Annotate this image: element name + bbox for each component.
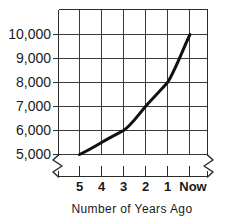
x-axis-title: Number of Years Ago — [71, 202, 192, 216]
y-axis-label-6000: 6,000 — [16, 122, 51, 138]
x-axis-label-1: 1 — [164, 179, 171, 194]
axis-break-left — [53, 155, 62, 177]
y-axis-label-5000: 5,000 — [16, 146, 51, 162]
x-axis-label-5: 5 — [76, 179, 83, 194]
chart-figure: 10,000 9,000 8,000 7,000 6,000 5,000 — [0, 0, 230, 224]
y-axis-label-7000: 7,000 — [16, 98, 51, 114]
horizontal-gridlines — [58, 35, 207, 155]
y-axis-tickmarks — [53, 35, 58, 155]
x-axis-labels: 5 4 3 2 1 Now — [76, 179, 208, 194]
y-axis-label-10000: 10,000 — [8, 26, 51, 42]
data-line-series — [80, 35, 191, 155]
y-axis-label-8000: 8,000 — [16, 74, 51, 90]
x-axis-tickmarks — [80, 166, 190, 177]
line-chart-svg: 10,000 9,000 8,000 7,000 6,000 5,000 — [0, 0, 230, 224]
x-axis-label-4: 4 — [98, 179, 106, 194]
axis-break-right — [204, 155, 213, 177]
y-axis-labels: 10,000 9,000 8,000 7,000 6,000 5,000 — [8, 26, 51, 162]
x-axis-label-3: 3 — [120, 179, 127, 194]
y-axis-label-9000: 9,000 — [16, 50, 51, 66]
x-axis-label-now: Now — [179, 179, 207, 194]
x-axis-label-2: 2 — [142, 179, 149, 194]
